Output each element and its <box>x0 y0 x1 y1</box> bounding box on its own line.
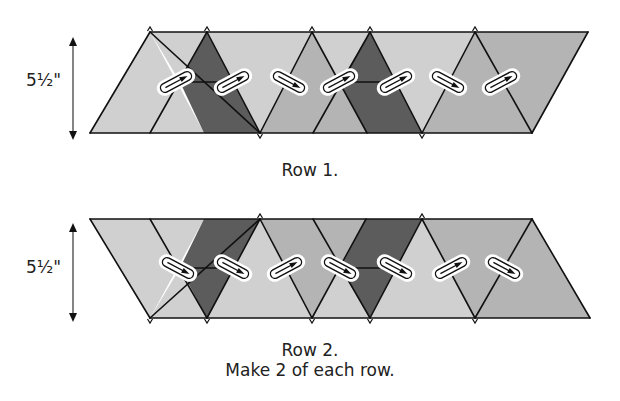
vertex-notch-icon <box>310 319 315 323</box>
row-2-diagram <box>90 214 590 323</box>
instructions-caption: Make 2 of each row. <box>0 360 620 380</box>
row-1-diagram <box>90 27 588 138</box>
vertex-notch-icon <box>420 134 425 138</box>
row-1-caption: Row 1. <box>0 160 620 180</box>
vertex-notch-icon <box>148 27 153 31</box>
vertex-notch-icon <box>368 27 373 31</box>
vertex-notch-icon <box>258 214 263 218</box>
vertex-notch-icon <box>258 134 263 138</box>
vertex-notch-icon <box>148 319 153 323</box>
row-1-height-label: 5½" <box>26 70 61 90</box>
vertex-notch-icon <box>473 319 478 323</box>
vertex-notch-icon <box>205 319 210 323</box>
vertex-notch-icon <box>310 27 315 31</box>
vertex-notch-icon <box>420 214 425 218</box>
row-2-caption: Row 2. <box>0 340 620 360</box>
vertex-notch-icon <box>205 27 210 31</box>
vertex-notch-icon <box>368 319 373 323</box>
row-2-height-label: 5½" <box>26 257 61 277</box>
vertex-notch-icon <box>473 27 478 31</box>
